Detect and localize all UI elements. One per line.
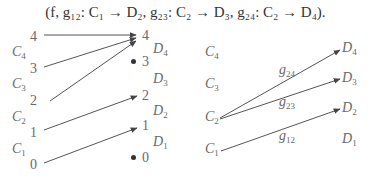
- target-number-4: 4: [142, 29, 149, 43]
- set-d1-left: D1: [153, 135, 168, 151]
- arrow-0-to-1: [44, 128, 137, 163]
- arrow-2-to-4: [50, 41, 136, 101]
- set-d2-left: D2: [153, 104, 168, 120]
- set-d4-left: D4: [153, 42, 168, 58]
- arrow-1-to-2: [44, 96, 137, 130]
- set-c1-right: C1: [205, 142, 219, 158]
- set-d2-right: D2: [342, 101, 357, 117]
- map-label-g12: g12: [279, 129, 295, 145]
- set-c4-right: C4: [205, 45, 219, 61]
- target-number-3: 3: [142, 55, 149, 69]
- target-number-0: 0: [142, 151, 149, 165]
- arrow-3-to-4: [44, 38, 136, 67]
- set-d4-right: D4: [342, 41, 357, 57]
- set-d1-right: D1: [342, 132, 357, 148]
- map-label-g23: g23: [279, 95, 295, 111]
- set-c3-right: C3: [205, 77, 219, 93]
- unmapped-dot-3: [131, 59, 136, 64]
- map-label-g24: g24: [279, 63, 295, 79]
- arrow-layer: [0, 0, 371, 178]
- target-number-2: 2: [142, 89, 149, 103]
- set-c1-left: C1: [12, 142, 26, 158]
- source-number-4: 4: [30, 30, 37, 44]
- unmapped-dot-0: [131, 155, 136, 160]
- set-c2-right: C2: [205, 110, 219, 126]
- set-c2-left: C2: [12, 110, 26, 126]
- source-number-2: 2: [30, 94, 37, 108]
- source-number-0: 0: [30, 158, 37, 172]
- set-c3-left: C3: [12, 77, 26, 93]
- set-d3-right: D3: [342, 71, 357, 87]
- target-number-1: 1: [142, 119, 149, 133]
- source-number-1: 1: [30, 126, 37, 140]
- set-c4-left: C4: [12, 45, 26, 61]
- source-number-3: 3: [30, 62, 37, 76]
- set-d3-left: D3: [153, 72, 168, 88]
